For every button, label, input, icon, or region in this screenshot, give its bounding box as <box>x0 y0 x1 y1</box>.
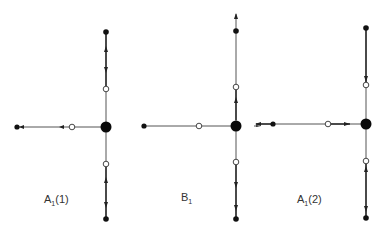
open-node <box>69 124 75 130</box>
arrow-down-icon <box>104 67 108 73</box>
label-suffix: (1) <box>55 193 68 205</box>
terminal-node <box>233 216 239 222</box>
arrow-up-icon <box>104 177 108 183</box>
figure-label-a1-2: A1(2) <box>297 193 322 207</box>
center-node <box>231 121 242 132</box>
open-node <box>196 123 202 129</box>
arrow-right-icon <box>344 122 350 126</box>
open-node <box>103 161 109 167</box>
arrow-left-icon <box>59 125 64 129</box>
terminal-node <box>103 29 109 35</box>
arrow-up-icon <box>364 166 368 172</box>
terminal-node <box>141 123 146 128</box>
figure-a1-2 <box>255 25 372 221</box>
terminal-node <box>270 121 275 126</box>
label-subscript: 1 <box>188 198 192 205</box>
open-node <box>363 158 369 164</box>
arrow-down-icon <box>364 206 368 212</box>
arrow-up-icon <box>234 97 238 103</box>
arrow-down-icon <box>364 76 368 82</box>
figure-label-a1-1: A1(1) <box>44 193 69 207</box>
open-node <box>103 86 109 92</box>
arrow-down-icon <box>234 205 238 211</box>
arrow-down-icon <box>104 202 108 208</box>
terminal-node <box>14 124 19 129</box>
terminal-node <box>103 216 109 222</box>
arrow-up-icon <box>104 46 108 52</box>
terminal-node <box>363 25 369 31</box>
terminal-node <box>363 215 369 221</box>
open-node <box>363 82 369 88</box>
center-node <box>101 122 112 133</box>
arrow-left-icon <box>19 125 24 129</box>
figure-b1 <box>141 13 261 222</box>
figure-label-b1: B1 <box>181 191 192 205</box>
terminal-node <box>233 28 239 34</box>
open-node <box>233 159 239 165</box>
arrow-down-icon <box>234 182 238 188</box>
arrow-up-icon <box>234 13 238 19</box>
center-node <box>361 119 372 130</box>
open-node <box>325 121 331 127</box>
label-suffix: (2) <box>308 193 321 205</box>
open-node <box>233 84 239 90</box>
